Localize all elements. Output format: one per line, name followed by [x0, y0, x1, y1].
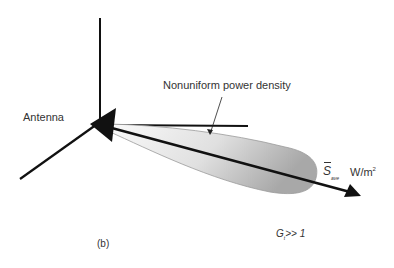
vector-symbol: S: [323, 164, 331, 178]
gain-symbol: G: [276, 228, 284, 239]
pattern-label: Nonuniform power density: [163, 80, 291, 91]
panel-label: (b): [97, 239, 109, 249]
antenna-label: Antenna: [23, 112, 64, 123]
x-axis-line: [20, 122, 100, 179]
antenna-radiation-diagram: [0, 0, 394, 268]
overbar: [324, 162, 331, 163]
units-label: W/m2: [350, 167, 376, 178]
gain-relation: >> 1: [285, 228, 305, 239]
antenna-triangle-icon: [90, 108, 116, 142]
vector-subscript: ave: [331, 175, 339, 181]
units-base: W/m: [350, 166, 373, 178]
gain-label: Gt>> 1: [276, 229, 305, 241]
power-density-vector-label: Save: [323, 165, 339, 179]
units-exponent: 2: [373, 166, 376, 172]
